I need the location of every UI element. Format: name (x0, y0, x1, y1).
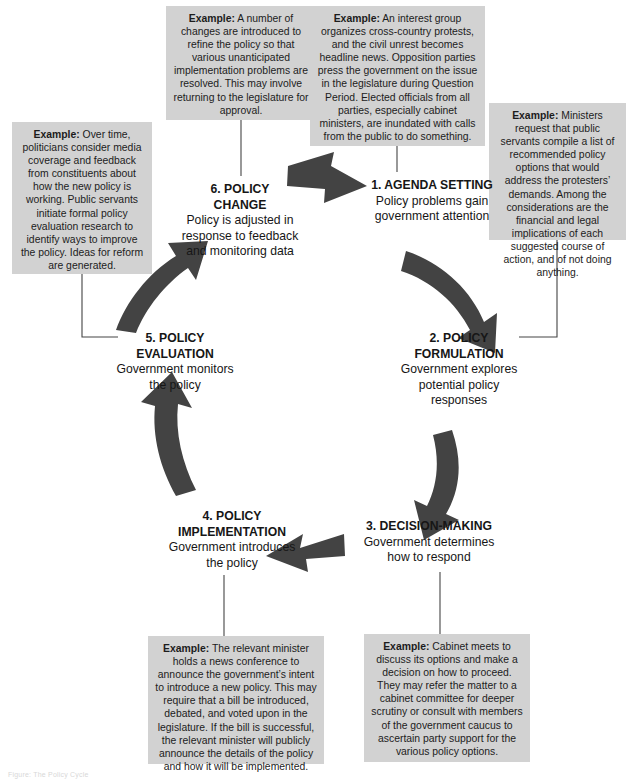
figure-caption: Figure: The Policy Cycle (8, 770, 89, 779)
stage-policy-evaluation: 5. POLICY EVALUATION Government monitors… (116, 331, 234, 393)
stage-policy-implementation: 4. POLICY IMPLEMENTATION Government intr… (164, 509, 300, 571)
stage-policy-evaluation-description: Government monitors the policy (116, 362, 234, 393)
stage-policy-implementation-description: Government introduces the policy (164, 540, 300, 571)
example-text-policy-evaluation: Over time, politicians consider media co… (21, 129, 143, 271)
example-box-agenda-setting: Example: An interest group organizes cro… (310, 6, 485, 146)
example-text-policy-implementation: The relevant minister holds a news confe… (155, 643, 316, 772)
example-box-policy-formulation: Example: Ministers request that public s… (489, 103, 626, 240)
example-box-decision-making: Example: Cabinet meets to discuss its op… (364, 634, 530, 762)
stage-policy-evaluation-title-line2: EVALUATION (116, 347, 234, 363)
stage-policy-implementation-title-line2: IMPLEMENTATION (164, 525, 300, 541)
example-label-agenda-setting: Example: (334, 13, 380, 24)
stage-policy-formulation-title-line2: FORMULATION (398, 347, 520, 363)
example-box-policy-implementation: Example: The relevant minister holds a n… (148, 636, 324, 764)
example-label-decision-making: Example: (383, 641, 429, 652)
stage-decision-making: 3. DECISION-MAKING Government determines… (353, 519, 505, 566)
stage-agenda-setting-description: Policy problems gain government attentio… (357, 194, 507, 225)
stage-decision-making-title: 3. DECISION-MAKING (353, 519, 505, 535)
stage-policy-formulation-title-line1: 2. POLICY (398, 331, 520, 347)
example-box-policy-change: Example: A number of changes are introdu… (166, 6, 316, 120)
stage-policy-change-title-line1: 6. POLICY (178, 182, 302, 198)
stage-policy-evaluation-title-line1: 5. POLICY (116, 331, 234, 347)
example-text-agenda-setting: An interest group organizes cross-countr… (318, 13, 477, 142)
policy-cycle-diagram: Example: A number of changes are introdu… (0, 0, 632, 780)
example-text-policy-change: A number of changes are introduced to re… (173, 13, 308, 116)
stage-policy-formulation: 2. POLICY FORMULATION Government explore… (398, 331, 520, 409)
example-label-policy-change: Example: (189, 13, 235, 24)
stage-policy-implementation-title-line1: 4. POLICY (164, 509, 300, 525)
stage-policy-change-title-line2: CHANGE (178, 198, 302, 214)
stage-policy-formulation-description: Government explores potential policy res… (398, 362, 520, 409)
example-label-policy-implementation: Example: (163, 643, 209, 654)
stage-policy-change-description: Policy is adjusted in response to feedba… (178, 213, 302, 260)
example-label-policy-evaluation: Example: (33, 129, 79, 140)
example-label-policy-formulation: Example: (512, 110, 558, 121)
leader-line-policy-evaluation (82, 274, 118, 337)
stage-agenda-setting: 1. AGENDA SETTING Policy problems gain g… (357, 178, 507, 225)
stage-agenda-setting-title: 1. AGENDA SETTING (357, 178, 507, 194)
example-text-decision-making: Cabinet meets to discuss its options and… (371, 641, 522, 757)
stage-policy-change: 6. POLICY CHANGE Policy is adjusted in r… (178, 182, 302, 260)
example-box-policy-evaluation: Example: Over time, politicians consider… (12, 122, 152, 274)
example-text-policy-formulation: Ministers request that public servants c… (501, 110, 615, 278)
stage-decision-making-description: Government determines how to respond (353, 535, 505, 566)
